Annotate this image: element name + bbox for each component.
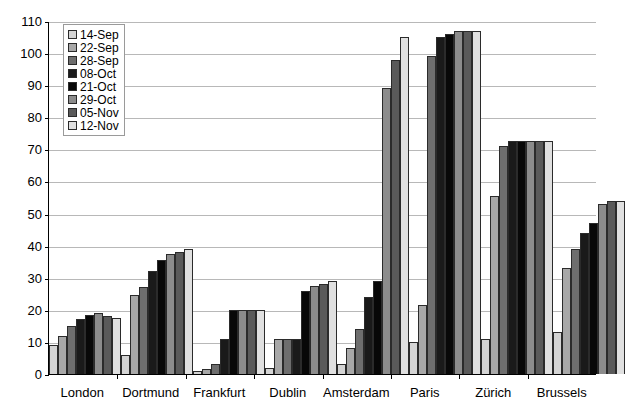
bar xyxy=(454,31,463,374)
x-axis-label: London xyxy=(48,385,117,400)
bar xyxy=(85,315,94,374)
legend-item: 21-Oct xyxy=(68,80,119,93)
bar xyxy=(490,196,499,374)
legend-item: 05-Nov xyxy=(68,106,119,119)
legend-swatch-icon xyxy=(68,56,77,65)
bar xyxy=(355,329,364,374)
legend-item-label: 22-Sep xyxy=(80,42,119,54)
bar xyxy=(616,201,625,374)
bar xyxy=(328,281,337,374)
y-tick-mark xyxy=(45,375,49,376)
y-tick-label: 70 xyxy=(4,143,42,156)
bar xyxy=(418,305,427,374)
x-tick-mark xyxy=(323,374,324,379)
bar xyxy=(346,348,355,374)
bar xyxy=(247,310,256,374)
legend-item-label: 28-Sep xyxy=(80,55,119,67)
bar xyxy=(400,37,409,374)
bar xyxy=(103,316,112,374)
bar-groups xyxy=(49,22,596,374)
y-tick-label: 20 xyxy=(4,304,42,317)
bar xyxy=(193,371,202,374)
legend-item: 28-Sep xyxy=(68,54,119,67)
legend-swatch-icon xyxy=(68,69,77,78)
x-axis-label: Frankfurt xyxy=(185,385,254,400)
x-tick-mark xyxy=(254,374,255,379)
x-axis-label: Brussels xyxy=(528,385,597,400)
bar xyxy=(310,286,319,374)
bar xyxy=(436,37,445,374)
bar-group xyxy=(409,22,481,374)
x-axis-label: Dublin xyxy=(254,385,323,400)
x-tick-mark xyxy=(528,374,529,379)
bar-group xyxy=(553,22,625,374)
legend-item-label: 08-Oct xyxy=(80,68,116,80)
bar xyxy=(49,345,58,374)
bar xyxy=(220,339,229,374)
x-tick-mark xyxy=(186,374,187,379)
bar xyxy=(364,297,373,374)
legend-swatch-icon xyxy=(68,43,77,52)
y-tick-label: 80 xyxy=(4,111,42,124)
bar xyxy=(535,141,544,374)
bar xyxy=(319,284,328,374)
bar xyxy=(481,339,490,374)
bar-group xyxy=(265,22,337,374)
bar xyxy=(499,146,508,374)
plot-area xyxy=(48,22,596,375)
bar xyxy=(292,339,301,374)
bar xyxy=(175,252,184,374)
y-tick-label: 10 xyxy=(4,336,42,349)
bar xyxy=(391,60,400,374)
y-tick-label: 30 xyxy=(4,272,42,285)
bar xyxy=(121,355,130,374)
bar xyxy=(202,369,211,374)
legend-item: 29-Oct xyxy=(68,93,119,106)
y-tick-label: 110 xyxy=(4,15,42,28)
legend-swatch-icon xyxy=(68,30,77,39)
legend-item-label: 12-Nov xyxy=(80,120,119,132)
bar-group xyxy=(481,22,553,374)
x-axis-label: Dortmund xyxy=(117,385,186,400)
x-tick-mark xyxy=(391,374,392,379)
bar xyxy=(562,268,571,374)
legend-item-label: 14-Sep xyxy=(80,29,119,41)
bar xyxy=(517,141,526,374)
bar xyxy=(445,34,454,374)
legend-swatch-icon xyxy=(68,108,77,117)
bar xyxy=(409,342,418,374)
bar xyxy=(463,31,472,374)
legend-swatch-icon xyxy=(68,95,77,104)
bar xyxy=(607,201,616,374)
y-tick-label: 50 xyxy=(4,208,42,221)
bar xyxy=(67,326,76,374)
bar xyxy=(373,281,382,374)
bar xyxy=(76,319,85,374)
bar xyxy=(112,318,121,374)
bar xyxy=(265,368,274,374)
bar xyxy=(184,249,193,374)
bar-group xyxy=(193,22,265,374)
legend-item: 08-Oct xyxy=(68,67,119,80)
bar xyxy=(508,141,517,374)
y-tick-label: 60 xyxy=(4,175,42,188)
bar xyxy=(283,339,292,374)
legend-item-label: 29-Oct xyxy=(80,94,116,106)
bar xyxy=(337,364,346,374)
bar xyxy=(544,141,553,374)
legend-swatch-icon xyxy=(68,82,77,91)
y-tick-label: 90 xyxy=(4,79,42,92)
legend-item: 12-Nov xyxy=(68,119,119,132)
bar xyxy=(166,254,175,374)
bar xyxy=(553,332,562,374)
bar xyxy=(301,291,310,374)
bar xyxy=(238,310,247,374)
bar xyxy=(472,31,481,374)
chart-legend: 14-Sep22-Sep28-Sep08-Oct21-Oct29-Oct05-N… xyxy=(63,24,125,136)
y-tick-label: 100 xyxy=(4,47,42,60)
x-tick-mark xyxy=(117,374,118,379)
bar xyxy=(571,249,580,374)
bar xyxy=(598,204,607,374)
legend-item-label: 05-Nov xyxy=(80,107,119,119)
